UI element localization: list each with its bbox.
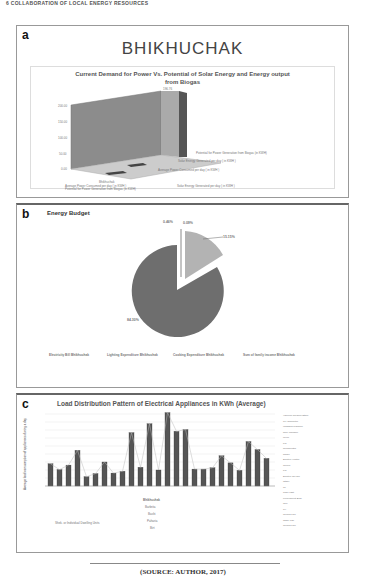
slice-label: 0.46%	[163, 220, 173, 224]
divider	[90, 563, 280, 564]
slice-label: 15.15%	[223, 235, 235, 239]
ytick: 200.00	[58, 104, 67, 108]
depth-label: Potential for Power Generation from Biog…	[196, 151, 267, 155]
slice-label: 84.30%	[127, 318, 139, 322]
chart-a-3d-bar: Current Demand for Power Vs. Potential o…	[30, 66, 335, 189]
legend-item: Potential for Power Generation from Biog…	[65, 187, 136, 191]
ytick: 100.00	[58, 136, 67, 140]
x-axis-note: Shek. or Individual Dwelling Units	[55, 521, 100, 525]
page-header: 6 COLLABORATION OF LOCAL ENERGY RESOURCE…	[6, 0, 148, 6]
y-axis-label: Average load consumption of appliances d…	[23, 418, 27, 490]
slice-label: 0.09%	[183, 221, 193, 225]
group-label: Barbrita	[145, 505, 156, 509]
ytick: 0.00	[61, 167, 67, 171]
source-caption: (SOURCE: AUTHOR, 2017)	[0, 568, 366, 576]
group-label: Paharia	[147, 519, 157, 523]
group-label: Bashi	[148, 512, 156, 516]
depth-label: Average Power Consumed per day ( in KWH …	[158, 168, 219, 172]
panel-a: a BHIKHUCHAK Current Demand for Power Vs…	[16, 25, 349, 198]
chart-b-pie	[17, 205, 350, 390]
legend-item: Lighting Expenditure Bhikhuchak	[107, 353, 158, 357]
ytick: 50.00	[59, 152, 67, 156]
panel-b: b Energy Budget 0.46% 0.09% 15.15% 84.30…	[16, 203, 349, 388]
legend-item: Sum of family income Bhikhuchak	[243, 353, 295, 357]
legend-item: Solar Energy Generated per day ( in KWH …	[177, 184, 235, 188]
location-title: BHIKHUCHAK	[17, 39, 348, 59]
legend-item: Cooking Expenditure Bhikhuchak	[173, 353, 224, 357]
legend-item: Ceiling Fan	[283, 523, 308, 529]
group-label: Bhikhuchak	[143, 498, 160, 502]
legend-item: Electricity Bill Bhikhuchak	[49, 353, 89, 357]
chart-c-legend: Vacuum Cleaner/Other Tv/ Computer Washin…	[283, 413, 308, 529]
ytick: 150.00	[58, 120, 67, 124]
depth-label: Solar Energy Generated per day ( in KWH …	[178, 159, 236, 163]
group-label: Birt	[150, 526, 155, 530]
panel-c: c Load Distribution Pattern of Electrica…	[16, 393, 349, 553]
value-label: 196.76	[163, 87, 172, 91]
